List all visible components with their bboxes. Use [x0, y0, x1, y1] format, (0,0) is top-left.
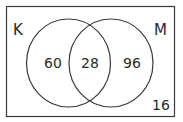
region-k-only: 60	[44, 55, 62, 71]
region-intersection: 28	[81, 55, 99, 71]
region-outside: 16	[152, 97, 170, 113]
region-m-only: 96	[123, 55, 141, 71]
set-label-k: K	[13, 21, 24, 39]
venn-diagram: K M 60 28 96 16	[0, 0, 183, 122]
set-label-m: M	[154, 21, 167, 39]
